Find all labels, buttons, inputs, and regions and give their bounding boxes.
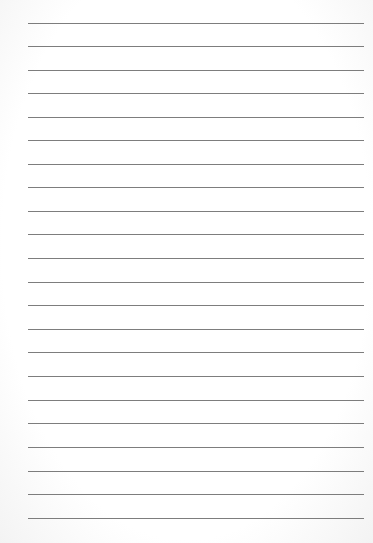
ruled-line	[28, 140, 364, 141]
ruled-line	[28, 471, 364, 472]
ruled-line	[28, 423, 364, 424]
ruled-line	[28, 117, 364, 118]
ruled-line	[28, 258, 364, 259]
ruled-line	[28, 187, 364, 188]
ruled-line	[28, 23, 364, 24]
ruled-line	[28, 329, 364, 330]
ruled-line	[28, 211, 364, 212]
ruled-line	[28, 164, 364, 165]
lined-paper-page	[0, 0, 373, 543]
ruled-line	[28, 518, 364, 519]
ruled-line	[28, 447, 364, 448]
ruled-line	[28, 352, 364, 353]
ruled-line	[28, 400, 364, 401]
ruled-line	[28, 305, 364, 306]
ruled-line	[28, 282, 364, 283]
ruled-line	[28, 70, 364, 71]
ruled-line	[28, 494, 364, 495]
ruled-line	[28, 93, 364, 94]
ruled-line	[28, 376, 364, 377]
ruled-line	[28, 234, 364, 235]
ruled-line	[28, 46, 364, 47]
